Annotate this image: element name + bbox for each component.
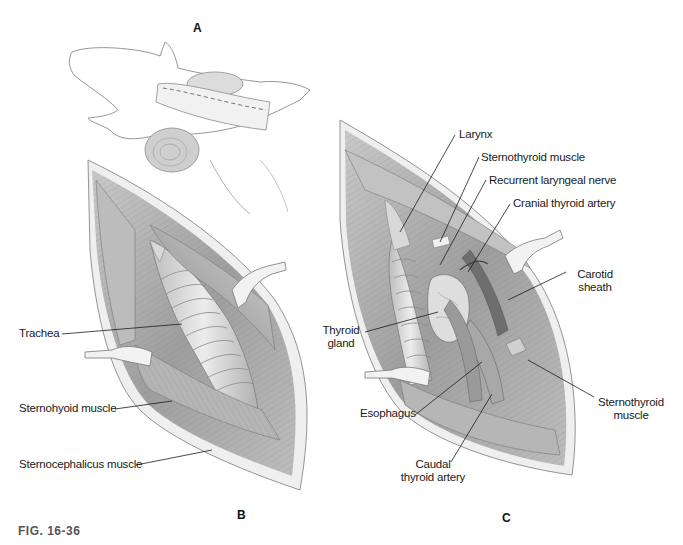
panel-letter-a: A	[193, 21, 202, 35]
label-thyroid-gland-line1: Thyroid	[318, 324, 364, 337]
label-sternothyroid-muscle-top: Sternothyroid muscle	[481, 151, 585, 164]
label-thyroid-gland: Thyroid gland	[318, 324, 364, 350]
label-sternothyroid-muscle-bottom: Sternothyroid muscle	[596, 396, 666, 422]
label-esophagus: Esophagus	[360, 407, 416, 420]
label-caudal-thyroid-line1: Caudal	[398, 458, 468, 471]
panel-b-surgical-field	[85, 160, 307, 490]
label-caudal-thyroid-artery: Caudal thyroid artery	[398, 458, 468, 484]
label-sternothyroid-line1: Sternothyroid	[596, 396, 666, 409]
label-larynx: Larynx	[459, 128, 492, 141]
panel-letter-c: C	[502, 511, 511, 525]
label-thyroid-gland-line2: gland	[318, 337, 364, 350]
surgical-figure: A B C Trachea Sternohyoid muscle Sternoc…	[0, 0, 683, 545]
label-recurrent-laryngeal-nerve: Recurrent laryngeal nerve	[489, 174, 616, 187]
label-sternothyroid-line2: muscle	[596, 409, 666, 422]
label-caudal-thyroid-line2: thyroid artery	[398, 471, 468, 484]
label-trachea: Trachea	[19, 327, 59, 340]
label-sternohyoid-muscle: Sternohyoid muscle	[19, 402, 116, 415]
label-sternocephalicus-muscle: Sternocephalicus muscle	[19, 458, 142, 471]
figure-caption: FIG. 16-36	[18, 524, 80, 538]
panel-letter-b: B	[237, 508, 246, 522]
label-carotid-sheath: Carotid sheath	[570, 268, 620, 294]
label-carotid-sheath-line2: sheath	[570, 281, 620, 294]
label-cranial-thyroid-artery: Cranial thyroid artery	[513, 197, 615, 210]
label-carotid-sheath-line1: Carotid	[570, 268, 620, 281]
